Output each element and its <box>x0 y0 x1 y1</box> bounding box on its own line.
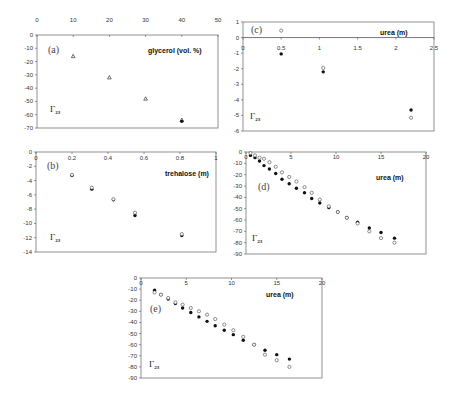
x-tick-label: 5 <box>289 154 293 160</box>
figure-canvas: 0-10-20-30-40-50-60-7001020304050(a)glyc… <box>0 0 451 393</box>
data-point-open <box>249 152 252 155</box>
data-point-open <box>189 306 192 309</box>
panel-label: (b) <box>47 160 59 172</box>
y-tick-label: 0 <box>29 149 33 155</box>
data-point-filled <box>295 187 298 190</box>
y-tick-label: -20 <box>128 297 137 303</box>
data-point-open <box>322 66 325 69</box>
data-point-filled <box>189 311 192 314</box>
data-point-open <box>268 161 271 164</box>
y-tick-label: -60 <box>24 112 33 118</box>
data-point-open <box>275 359 278 362</box>
y-axis-label: Γ23 <box>50 104 61 115</box>
x-tick-label: 0.5 <box>277 45 286 51</box>
data-point-open <box>174 301 177 304</box>
data-point-filled <box>409 108 412 111</box>
data-point-filled <box>310 197 313 200</box>
data-point-filled <box>223 329 226 332</box>
y-axis-label: Γ23 <box>149 359 160 370</box>
x-tick-label: 0 <box>244 154 248 160</box>
data-point-open <box>356 222 359 225</box>
y-tick-label: -5 <box>234 112 240 118</box>
data-point-open <box>336 210 339 213</box>
data-point-open <box>379 237 382 240</box>
y-tick-label: -20 <box>233 172 242 178</box>
y-tick-label: -40 <box>24 85 33 91</box>
x-tick-label: 1 <box>214 155 218 161</box>
data-point-open <box>133 211 136 214</box>
y-tick-label: -50 <box>24 98 33 104</box>
data-point-filled <box>288 357 291 360</box>
y-tick-label: 0 <box>30 32 34 38</box>
y-tick-label: -6 <box>27 192 33 198</box>
x-axis-label: urea (m) <box>380 29 408 37</box>
data-point-open <box>144 97 148 100</box>
data-point-open <box>253 154 256 157</box>
y-axis-label: Γ23 <box>50 232 61 243</box>
x-tick-label: 20 <box>423 154 430 160</box>
data-point-filled <box>197 315 200 318</box>
data-point-filled <box>232 333 235 336</box>
y-tick-label: 0 <box>134 275 138 281</box>
y-axis-label: Γ23 <box>252 233 263 244</box>
data-point-open <box>214 318 217 321</box>
x-tick-label: 30 <box>142 17 149 23</box>
data-point-filled <box>275 353 278 356</box>
x-tick-label: 0 <box>35 17 39 23</box>
data-point-filled <box>280 178 283 181</box>
data-point-filled <box>263 349 266 352</box>
y-tick-label: -20 <box>24 59 33 65</box>
y-tick-label: -4 <box>234 97 240 103</box>
y-tick-label: -3 <box>234 81 240 87</box>
data-point-filled <box>368 226 371 229</box>
y-tick-label: -8 <box>27 206 33 212</box>
y-tick-label: -40 <box>233 194 242 200</box>
y-tick-label: -2 <box>27 163 33 169</box>
y-tick-label: -80 <box>128 364 137 370</box>
data-point-open <box>310 191 313 194</box>
y-tick-label: -70 <box>233 228 242 234</box>
data-point-open <box>108 76 112 79</box>
data-point-open <box>262 157 265 160</box>
data-point-open <box>153 291 156 294</box>
y-tick-label: -60 <box>128 342 137 348</box>
data-point-open <box>280 29 283 32</box>
x-tick-label: 5 <box>185 280 189 286</box>
plot-frame <box>141 278 322 378</box>
y-tick-label: -70 <box>24 125 33 131</box>
y-tick-label: -10 <box>23 220 32 226</box>
data-point-open <box>295 180 298 183</box>
y-tick-label: -1 <box>234 50 240 56</box>
data-point-open <box>242 335 245 338</box>
data-point-open <box>167 296 170 299</box>
data-point-open <box>205 313 208 316</box>
y-axis-label: Γ23 <box>250 111 261 122</box>
chart-panel-d: 0-10-20-30-40-50-60-70-80-9005101520(d)u… <box>233 149 430 257</box>
data-point-filled <box>205 320 208 323</box>
data-point-filled <box>214 324 217 327</box>
panel-label: (d) <box>258 181 270 193</box>
data-point-filled <box>288 182 291 185</box>
x-tick-label: 2.5 <box>430 45 439 51</box>
x-tick-label: 1.5 <box>353 45 362 51</box>
y-tick-label: -80 <box>233 240 242 246</box>
x-tick-label: 1 <box>318 45 322 51</box>
x-tick-label: 20 <box>319 280 326 286</box>
chart-panel-e: 0-10-20-30-40-50-60-70-80-9005101520(e)u… <box>128 275 326 381</box>
data-point-filled <box>322 70 325 73</box>
y-tick-label: 1 <box>236 19 240 25</box>
x-tick-label: 50 <box>215 17 222 23</box>
y-tick-label: -30 <box>233 183 242 189</box>
data-point-open <box>71 54 75 57</box>
y-tick-label: -10 <box>128 286 137 292</box>
data-point-open <box>70 173 73 176</box>
y-tick-label: -50 <box>128 331 137 337</box>
chart-panel-c: 10-1-2-3-4-5-600.511.522.5(c)urea (m)Γ23 <box>234 19 439 134</box>
data-point-open <box>232 329 235 332</box>
x-tick-label: 15 <box>273 280 280 286</box>
data-point-filled <box>268 167 271 170</box>
x-tick-label: 15 <box>378 154 385 160</box>
x-tick-label: 10 <box>333 154 340 160</box>
y-tick-label: -2 <box>234 66 240 72</box>
data-point-open <box>327 205 330 208</box>
